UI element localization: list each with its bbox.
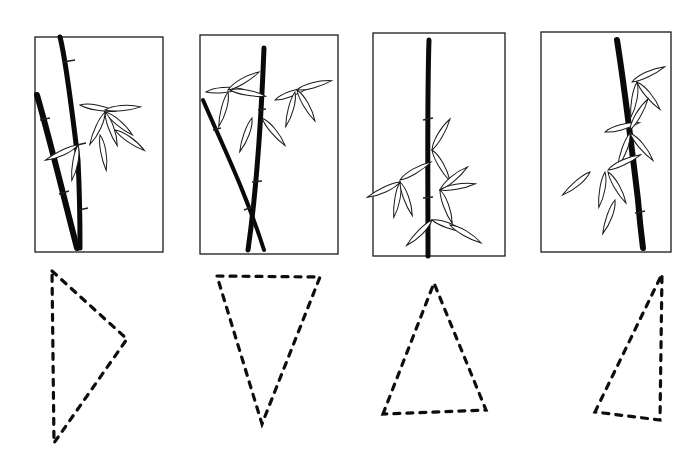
bamboo-composition-figure [0,0,700,464]
bamboo-leaves [561,64,666,235]
composition-triangle-1 [52,271,127,443]
panel-frame [35,37,163,252]
bamboo-panel-4 [541,32,671,252]
composition-triangle-3 [383,283,486,414]
bamboo-leaves [366,117,482,247]
bamboo-panel-2 [200,35,338,254]
composition-triangle-2 [217,276,320,424]
bamboo-panel-3 [366,33,505,256]
bamboo-panel-1 [35,37,163,252]
composition-triangle-4 [595,274,662,420]
bamboo-leaves [206,69,333,152]
